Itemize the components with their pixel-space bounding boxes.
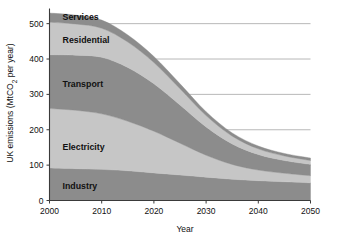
series-label-transport: Transport [63, 79, 104, 89]
emissions-area-chart: 200020102020203020402050 010020030040050… [0, 0, 337, 237]
y-tick-label: 300 [29, 89, 43, 99]
series-label-electricity: Electricity [63, 142, 105, 152]
x-tick-label: 2000 [40, 206, 59, 216]
x-axis-title: Year [176, 224, 193, 234]
y-tick-label: 100 [29, 160, 43, 170]
y-tick-label: 0 [39, 196, 44, 206]
chart-canvas: 200020102020203020402050 010020030040050… [0, 0, 337, 237]
x-tick-label: 2050 [301, 206, 320, 216]
x-tick-label: 2040 [249, 206, 268, 216]
series-label-services: Services [63, 12, 99, 22]
y-tick-label: 200 [29, 125, 43, 135]
x-tick-labels: 200020102020203020402050 [40, 206, 320, 216]
series-label-residential: Residential [63, 35, 110, 45]
y-tick-label: 500 [29, 19, 43, 29]
x-tick-label: 2010 [92, 206, 111, 216]
x-tick-label: 2030 [197, 206, 216, 216]
x-tick-label: 2020 [144, 206, 163, 216]
y-tick-label: 400 [29, 54, 43, 64]
y-axis-title: UK emissions (MtCO2 per year) [5, 43, 18, 163]
y-tick-labels: 0100200300400500 [29, 19, 43, 206]
series-label-industry: Industry [63, 181, 98, 191]
